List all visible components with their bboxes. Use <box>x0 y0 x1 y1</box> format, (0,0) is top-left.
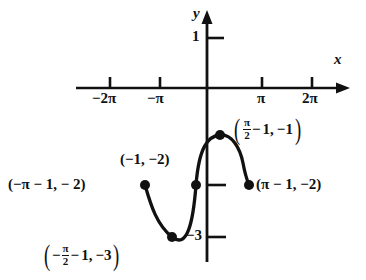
fraction-sign-minimum: − <box>52 248 61 263</box>
point-right-endpoint <box>244 180 254 190</box>
fraction-pi-over-2-maximum: π 2 <box>243 117 251 140</box>
fraction-denominator: 2 <box>62 255 70 267</box>
annotation-maximum: ( π 2 − 1, −1 ) <box>232 114 303 144</box>
x-term-maximum: 1, <box>263 122 274 137</box>
fraction-denominator: 2 <box>243 129 251 141</box>
y-tick-label-neg3: −3 <box>186 228 202 243</box>
right-paren-minimum: ) <box>113 240 119 270</box>
y-axis <box>202 10 213 262</box>
x-axis-label: x <box>334 52 342 67</box>
fraction-pi-over-2-minimum: π 2 <box>62 243 70 266</box>
x-tick-label-2pi: 2π <box>302 91 318 106</box>
right-paren-maximum: ) <box>295 114 301 144</box>
annotation-right-endpoint: (π − 1, −2) <box>256 177 321 192</box>
y-value-minimum: −3 <box>95 248 111 263</box>
annotation-minimum: ( − π 2 − 1, −3 ) <box>42 240 121 270</box>
point-maximum <box>215 130 225 140</box>
y-axis-label: y <box>193 6 200 21</box>
point-minimum <box>167 232 177 242</box>
minus-sign-minimum: − <box>71 248 80 263</box>
y-value-maximum: −1 <box>277 122 293 137</box>
left-paren-maximum: ( <box>234 114 240 144</box>
x-tick-label-neg2pi: −2π <box>92 91 116 106</box>
graph-figure: x y −2π −π π 2π 1 −3 ( π 2 − 1, −1 ) (−1… <box>0 0 366 280</box>
x-tick-label-negpi: −π <box>147 91 164 106</box>
x-tick-label-pi: π <box>257 91 265 106</box>
y-tick-label-1: 1 <box>192 29 200 44</box>
fraction-numerator: π <box>62 243 70 254</box>
point-left-endpoint <box>140 180 150 190</box>
coordinate-plane-svg <box>0 0 366 280</box>
point-mid-rising <box>191 180 201 190</box>
left-paren-minimum: ( <box>44 240 50 270</box>
fraction-numerator: π <box>243 117 251 128</box>
x-term-minimum: 1, <box>81 248 92 263</box>
annotation-left-endpoint: (−π − 1, − 2) <box>8 177 86 192</box>
minus-sign-maximum: − <box>252 122 261 137</box>
annotation-mid-point: (−1, −2) <box>120 152 170 167</box>
